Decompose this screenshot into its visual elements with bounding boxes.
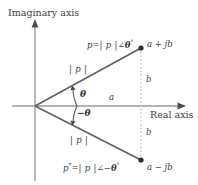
magnitude-label-lower: | p | — [70, 136, 88, 145]
imaginary-axis — [32, 19, 39, 181]
angle-arc-theta — [70, 85, 77, 106]
angle-arc-negative-theta — [70, 106, 77, 126]
real-component-label: a — [109, 93, 114, 102]
theta-angle-label: θ — [80, 90, 86, 99]
magnitude-label-upper: | p | — [69, 65, 87, 74]
equals-sign-lower: = — [71, 163, 78, 173]
magnitude-p-lower-expr: | p | — [79, 163, 97, 173]
point-marker-p — [138, 45, 143, 50]
degree-symbol-upper: ° — [130, 38, 133, 45]
complex-plane-diagram: Imaginary axis Real axis p=| p |∠θ° a + … — [0, 0, 198, 185]
imaginary-component-label-lower: b — [146, 128, 151, 137]
real-axis-label: Real axis — [150, 110, 193, 120]
negative-theta-angle-label: −θ — [77, 109, 91, 118]
equals-sign-upper: = — [92, 40, 99, 50]
point-p-cartesian-label: a + jb — [147, 40, 173, 49]
minus-sign-lower: − — [104, 163, 111, 173]
magnitude-p-upper-expr: | p | — [100, 40, 118, 50]
diagram-canvas — [0, 0, 198, 185]
imaginary-axis-label: Imaginary axis — [8, 8, 79, 18]
degree-symbol-lower: ° — [117, 161, 120, 168]
point-p-conjugate-cartesian-label: a − jb — [147, 163, 173, 172]
vector-p — [35, 48, 141, 106]
angle-symbol-lower: ∠ — [97, 163, 104, 173]
angle-symbol-upper: ∠ — [118, 40, 125, 50]
point-p-conjugate-polar-expression: p*=| p |∠−θ° — [63, 162, 120, 172]
point-p-polar-expression: p=| p |∠θ° — [87, 39, 133, 49]
point-marker-p-conjugate — [138, 157, 143, 162]
imaginary-component-label-upper: b — [146, 75, 151, 84]
